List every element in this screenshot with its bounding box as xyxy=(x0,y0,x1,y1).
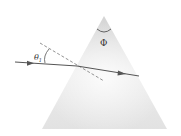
incidence-angle-arc xyxy=(45,49,50,63)
apex-angle-label: Φ xyxy=(100,38,107,48)
incidence-angle-label: θ1 xyxy=(34,53,42,63)
incident-arrowhead xyxy=(27,61,34,66)
incident-ray xyxy=(15,62,77,66)
prism-highlight xyxy=(42,16,167,129)
prism-refraction-diagram: Φ θ1 xyxy=(0,0,181,136)
incidence-angle-subscript: 1 xyxy=(39,57,42,63)
